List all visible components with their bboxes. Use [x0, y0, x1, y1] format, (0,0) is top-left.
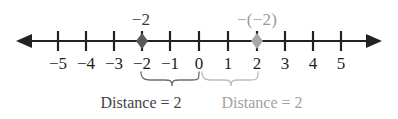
tick-label-pos5: 5: [337, 55, 346, 72]
caption-distance-right: Distance = 2: [222, 95, 303, 111]
brace-right-distance: [202, 72, 258, 86]
caption-distance-left: Distance = 2: [101, 95, 182, 111]
left-arrowhead-icon: [16, 34, 32, 48]
point-marker-positive-two: [251, 33, 263, 49]
tick-label-pos4: 4: [309, 55, 318, 72]
right-arrowhead-icon: [366, 34, 382, 48]
tick-label-pos2: 2: [253, 55, 262, 72]
tick-label-pos1: 1: [224, 55, 233, 72]
marker-label-negative-two: −2: [132, 11, 151, 28]
tick-label-neg2: −2: [133, 55, 151, 72]
tick-label-neg5: −5: [49, 55, 67, 72]
number-line-figure: −2 −(−2) −5 −4 −3 −2 −1 0 1 2 3 4 5 Dist…: [0, 0, 398, 119]
point-marker-negative-two: [136, 33, 148, 49]
brace-left-distance: [141, 72, 199, 86]
tick-label-neg1: −1: [161, 55, 179, 72]
tick-label-neg4: −4: [77, 55, 95, 72]
marker-label-opposite-of-negative-two: −(−2): [237, 11, 277, 28]
tick-label-pos3: 3: [281, 55, 290, 72]
tick-label-neg3: −3: [105, 55, 123, 72]
tick-label-zero: 0: [195, 55, 204, 72]
